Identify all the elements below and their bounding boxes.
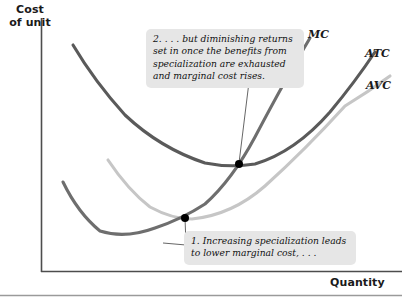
annotation-increasing-specialization: 1. Increasing specialization leads to lo… — [184, 231, 356, 265]
intersection-dot-mc-atc — [235, 160, 243, 168]
annotation-diminishing-returns: 2. . . . but diminishing returns set in … — [146, 29, 304, 88]
x-axis-label: Quantity — [330, 277, 396, 290]
y-axis-label-line1: Cost — [2, 4, 58, 17]
cost-curve-figure: Cost of unit Quantity MC ATC AVC 2. . . … — [0, 0, 402, 298]
y-axis-label-line2: of unit — [2, 17, 58, 30]
leader-line-increasing-specialization-tail — [163, 243, 186, 245]
y-axis-label: Cost of unit — [2, 4, 58, 29]
atc-curve-label: ATC — [365, 47, 390, 60]
avc-curve-label: AVC — [366, 79, 391, 92]
intersection-dot-mc-avc — [181, 214, 189, 222]
mc-curve-label: MC — [308, 28, 329, 41]
